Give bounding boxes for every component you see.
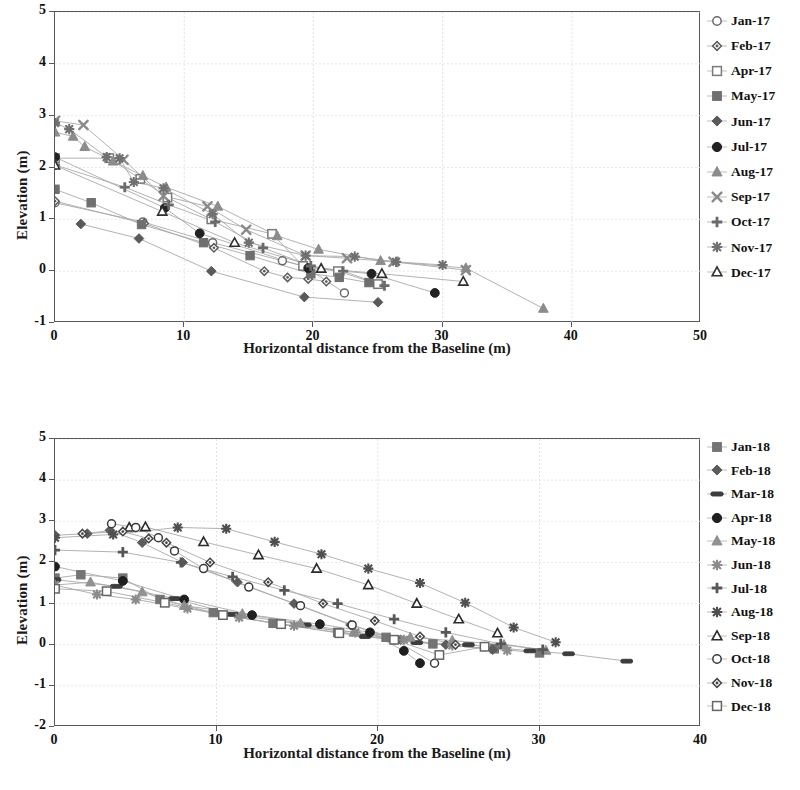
chart1-y-tick-label: -1 [18, 313, 46, 329]
plus-icon [706, 581, 728, 595]
legend-label: Sep-18 [731, 629, 770, 643]
star-burst-icon [706, 605, 728, 619]
star-burst-icon [706, 240, 728, 254]
legend-label: Aug-18 [731, 605, 773, 619]
chart2-legend: Jan-18Feb-18Mar-18Apr-18May-18Jun-18Jul-… [706, 435, 775, 718]
legend-item-may-18[interactable]: May-18 [706, 529, 775, 553]
legend-label: Oct-17 [731, 215, 770, 229]
legend-item-jul-17[interactable]: Jul-17 [706, 134, 775, 159]
series-line [81, 224, 378, 302]
chart2-x-tick-mark [539, 726, 540, 731]
legend-item-nov-18[interactable]: Nov-18 [706, 671, 775, 695]
dash-icon [706, 487, 728, 501]
chart2-y-tick-label: 0 [18, 635, 46, 651]
chart1-canvas [55, 12, 701, 323]
chart2-y-tick-mark [49, 561, 54, 562]
legend-item-feb-18[interactable]: Feb-18 [706, 459, 775, 483]
filled-diamond-icon [706, 114, 728, 128]
chart2-y-tick-mark [49, 603, 54, 604]
chart1-y-tick-mark [49, 270, 54, 271]
legend-item-jun-17[interactable]: Jun-17 [706, 109, 775, 134]
chart2-y-tick-mark [49, 726, 54, 727]
series-markers [55, 118, 448, 270]
legend-item-apr-18[interactable]: Apr-18 [706, 506, 775, 530]
chart2-x-tick-mark [216, 726, 217, 731]
legend-item-nov-17[interactable]: Nov-17 [706, 235, 775, 260]
chart1-y-tick-label: 1 [18, 209, 46, 225]
filled-triangle-icon [706, 534, 728, 548]
chart2-y-tick-label: -1 [18, 676, 46, 692]
chart2-canvas [55, 439, 701, 727]
legend-item-aug-17[interactable]: Aug-17 [706, 159, 775, 184]
chart1-y-tick-mark [49, 63, 54, 64]
chart2-x-axis-label: Horizontal distance from the Baseline (m… [54, 745, 700, 762]
x-cross-icon [706, 190, 728, 204]
legend-label: Sep-17 [731, 190, 770, 204]
legend-item-mar-18[interactable]: Mar-18 [706, 482, 775, 506]
legend-item-apr-17[interactable]: Apr-17 [706, 58, 775, 83]
chart2-y-tick-label: 5 [18, 429, 46, 445]
series-markers [55, 199, 348, 297]
legend-label: Nov-18 [731, 676, 772, 690]
legend-item-dec-18[interactable]: Dec-18 [706, 695, 775, 719]
chart1-y-tick-mark [49, 218, 54, 219]
legend-item-sep-17[interactable]: Sep-17 [706, 184, 775, 209]
chart1-y-tick-mark [49, 115, 54, 116]
chart2-y-tick-mark [49, 520, 54, 521]
legend-item-oct-17[interactable]: Oct-17 [706, 210, 775, 235]
chart2-plot-area [54, 438, 700, 726]
legend-label: Jan-17 [731, 14, 770, 28]
legend-label: Feb-18 [731, 464, 771, 478]
chart2-y-tick-mark [49, 644, 54, 645]
chart2-y-tick-mark [49, 685, 54, 686]
series-line [129, 527, 497, 633]
legend-item-dec-17[interactable]: Dec-17 [706, 260, 775, 285]
legend-item-may-17[interactable]: May-17 [706, 84, 775, 109]
chart2-y-tick-label: 4 [18, 470, 46, 486]
filled-square-icon [706, 440, 728, 454]
figure-page: Elevation (m) -101234501020304050 Horizo… [0, 0, 800, 790]
chart1-y-tick-label: 4 [18, 54, 46, 70]
series-markers [125, 522, 502, 637]
legend-item-feb-17[interactable]: Feb-17 [706, 33, 775, 58]
open-triangle-icon [706, 629, 728, 643]
series-markers [76, 219, 383, 307]
chart1-x-tick-mark [442, 322, 443, 327]
legend-label: Jan-18 [731, 440, 770, 454]
chart1-y-tick-label: 2 [18, 158, 46, 174]
legend-item-aug-18[interactable]: Aug-18 [706, 600, 775, 624]
legend-item-jun-18[interactable]: Jun-18 [706, 553, 775, 577]
legend-label: Oct-18 [731, 652, 770, 666]
series-line [55, 530, 493, 649]
legend-label: May-18 [731, 534, 775, 548]
chart1-x-axis-label: Horizontal distance from the Baseline (m… [54, 340, 700, 357]
star-burst-icon [706, 558, 728, 572]
legend-label: Feb-17 [731, 39, 771, 53]
open-square-icon [706, 64, 728, 78]
chart2-y-tick-label: 3 [18, 511, 46, 527]
legend-item-jul-18[interactable]: Jul-18 [706, 577, 775, 601]
series-line [55, 582, 546, 650]
series-line [55, 575, 540, 653]
legend-label: Dec-18 [731, 700, 771, 714]
filled-square-icon [706, 89, 728, 103]
chart2-y-tick-label: 1 [18, 594, 46, 610]
legend-item-jan-17[interactable]: Jan-17 [706, 8, 775, 33]
series-line [55, 165, 463, 281]
open-square-icon [706, 699, 728, 713]
series-line [55, 132, 543, 308]
chart2-y-tick-mark [49, 438, 54, 439]
legend-item-jan-18[interactable]: Jan-18 [706, 435, 775, 459]
chart1-x-tick-mark [312, 322, 313, 327]
chart2-x-tick-mark [377, 726, 378, 731]
filled-circle-icon [706, 140, 728, 154]
chart1-y-tick-label: 3 [18, 106, 46, 122]
legend-item-sep-18[interactable]: Sep-18 [706, 624, 775, 648]
legend-label: Jul-18 [731, 582, 767, 596]
chart1-x-tick-mark [571, 322, 572, 327]
filled-circle-icon [706, 511, 728, 525]
chart1-plot-area [54, 11, 700, 322]
legend-item-oct-18[interactable]: Oct-18 [706, 647, 775, 671]
legend-label: Apr-18 [731, 511, 772, 525]
legend-label: Apr-17 [731, 64, 772, 78]
